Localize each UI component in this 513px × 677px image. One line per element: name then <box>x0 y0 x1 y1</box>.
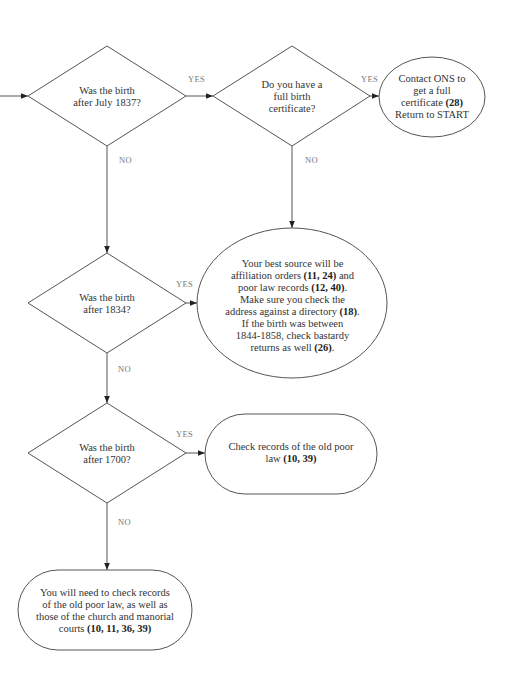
decision-d2-line2: full birth <box>242 91 342 103</box>
church-manorial-line3: those of the church and manorial <box>25 611 185 623</box>
decision-d3-text: Was the birth after 1834? <box>57 292 157 316</box>
ref-10-39: (10, 39) <box>283 453 316 464</box>
decision-d3-line2: after 1834? <box>57 304 157 316</box>
decision-d2-text: Do you have a full birth certificate? <box>242 79 342 115</box>
decision-d1-line1: Was the birth <box>57 85 157 97</box>
label-d2-yes: YES <box>361 74 378 84</box>
best-source-line4: Make sure you check the <box>215 294 370 306</box>
decision-d1-line2: after July 1837? <box>57 97 157 109</box>
decision-d2-line1: Do you have a <box>242 79 342 91</box>
best-source-line5: address against a directory (18). <box>215 306 370 318</box>
decision-d4-text: Was the birth after 1700? <box>57 442 157 466</box>
old-poor-law-line1: Check records of the old poor <box>215 441 367 453</box>
ons-line4: Return to START <box>382 109 482 121</box>
decision-d3-line1: Was the birth <box>57 292 157 304</box>
decision-d4-line1: Was the birth <box>57 442 157 454</box>
ref-12-40: (12, 40) <box>311 282 344 293</box>
ref-11-24: (11, 24) <box>304 270 337 281</box>
decision-d1-text: Was the birth after July 1837? <box>57 85 157 109</box>
best-source-line2: affiliation orders (11, 24) and <box>215 270 370 282</box>
best-source-line1: Your best source will be <box>215 258 370 270</box>
ons-line2: get a full <box>382 85 482 97</box>
label-d2-no: NO <box>305 155 318 165</box>
best-source-line7: 1844-1858, check bastardy <box>215 330 370 342</box>
outcome-best-source-text: Your best source will be affiliation ord… <box>215 258 370 354</box>
label-d3-yes: YES <box>176 279 193 289</box>
church-manorial-line1: You will need to check records <box>25 587 185 599</box>
old-poor-law-line2: law (10, 39) <box>215 453 367 465</box>
church-manorial-line2: of the old poor law, as well as <box>25 599 185 611</box>
best-source-line6: If the birth was between <box>215 318 370 330</box>
church-manorial-line4: courts (10, 11, 36, 39) <box>25 623 185 635</box>
label-d1-no: NO <box>119 155 132 165</box>
best-source-line8: returns as well (26). <box>215 342 370 354</box>
ref-18: (18) <box>340 306 358 317</box>
outcome-ons-text: Contact ONS to get a full certificate (2… <box>382 73 482 121</box>
ref-28: (28) <box>446 97 464 108</box>
decision-d4-line2: after 1700? <box>57 454 157 466</box>
ref-10-11-36-39: (10, 11, 36, 39) <box>87 623 151 634</box>
label-d4-yes: YES <box>176 429 193 439</box>
outcome-old-poor-law-text: Check records of the old poor law (10, 3… <box>215 441 367 465</box>
label-d1-yes: YES <box>188 74 205 84</box>
label-d4-no: NO <box>118 517 131 527</box>
ons-line3: certificate (28) <box>382 97 482 109</box>
outcome-church-manorial-text: You will need to check records of the ol… <box>25 587 185 635</box>
best-source-line3: poor law records (12, 40). <box>215 282 370 294</box>
ref-26: (26) <box>314 342 332 353</box>
decision-d2-line3: certificate? <box>242 103 342 115</box>
label-d3-no: NO <box>118 364 131 374</box>
ons-line1: Contact ONS to <box>382 73 482 85</box>
